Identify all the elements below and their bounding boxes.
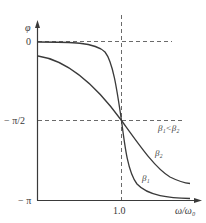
y-axis-label: φ: [25, 22, 31, 33]
y-tick-half-pi: − π/2: [4, 115, 25, 126]
curve-label-beta2: β₂: [154, 148, 163, 158]
x-axis-label: ω/ω₀: [175, 205, 196, 216]
x-tick-one: 1.0: [113, 205, 126, 216]
y-tick-pi: − π: [18, 195, 31, 206]
y-tick-zero: 0: [26, 36, 31, 47]
y-axis-arrow-icon: [35, 20, 40, 28]
phase-frequency-diagram: φ 0 − π/2 − π 1.0 ω/ω₀ β₁<β₂ β₂ β₁: [0, 0, 206, 223]
damping-comparison-annotation: β₁<β₂: [157, 123, 179, 133]
x-axis-arrow-icon: [194, 198, 202, 203]
curve-label-beta1: β₁: [141, 173, 150, 183]
